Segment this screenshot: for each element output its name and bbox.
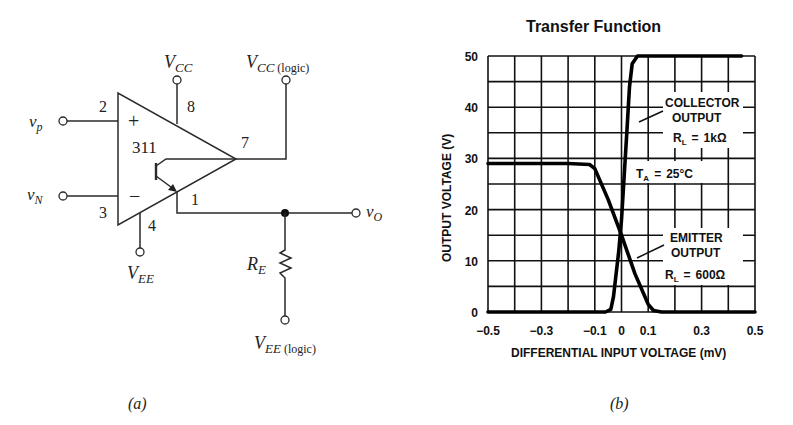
y-tick-label: 50 [465, 50, 479, 64]
pin-3-label: 3 [99, 204, 107, 221]
chart-title: Transfer Function [526, 18, 661, 35]
vp-label: vp [29, 112, 43, 134]
circuit-diagram: 2 3 8 4 7 1 + − 311 vp vN vO VCC VCC(log… [27, 52, 383, 413]
pin-2-label: 2 [99, 98, 107, 115]
x-axis-label: DIFFERENTIAL INPUT VOLTAGE (mV) [511, 346, 726, 360]
vcc-label: VCC [164, 52, 193, 75]
vee-logic-label: VEE(logic) [254, 333, 316, 356]
chip-label: 311 [132, 138, 157, 157]
vee-label: VEE [127, 263, 154, 286]
resistor-re [280, 213, 291, 316]
emitter-leader [637, 245, 664, 258]
collector-leader [639, 111, 663, 122]
y-tick-label: 30 [465, 152, 479, 166]
caption-a: (a) [128, 395, 147, 413]
vee-logic-terminal [281, 316, 289, 324]
emitter-label-1: EMITTER [670, 231, 723, 245]
y-tick-label: 40 [465, 101, 479, 115]
x-tick-label: 0.1 [640, 324, 657, 338]
pin-8-label: 8 [187, 98, 195, 115]
figure-canvas: 2 3 8 4 7 1 + − 311 vp vN vO VCC VCC(log… [0, 0, 793, 425]
pin-7-label: 7 [241, 134, 249, 151]
emitter-label-2: OUTPUT [671, 246, 721, 260]
x-tick-label: 0 [618, 324, 625, 338]
pin-4-label: 4 [148, 217, 156, 234]
vcc-logic-terminal [282, 76, 290, 84]
transfer-function-chart: Transfer Function 01020304050−0.5−0.3−0.… [440, 18, 764, 413]
collector-label-2: OUTPUT [672, 111, 722, 125]
vee-terminal [136, 248, 144, 256]
vo-terminal [352, 209, 360, 217]
vn-label: vN [27, 185, 44, 207]
vo-label: vO [366, 202, 383, 224]
x-tick-label: −0.1 [583, 324, 607, 338]
vcc-terminal [173, 76, 181, 84]
caption-b: (b) [610, 395, 629, 413]
re-label: RE [246, 254, 266, 277]
x-tick-label: −0.5 [476, 324, 500, 338]
vn-terminal [59, 192, 67, 200]
plus-sign: + [128, 110, 139, 132]
x-tick-label: 0.5 [747, 324, 764, 338]
vp-terminal [59, 117, 67, 125]
y-tick-label: 0 [471, 306, 478, 320]
x-tick-label: −0.3 [530, 324, 554, 338]
minus-sign: − [129, 185, 140, 207]
y-tick-label: 10 [465, 255, 479, 269]
collector-label-1: COLLECTOR [665, 96, 740, 110]
vcc-logic-label: VCC(logic) [246, 52, 309, 75]
pin-1-label: 1 [191, 191, 199, 208]
y-axis-label: OUTPUT VOLTAGE (V) [440, 134, 454, 262]
x-tick-label: 0.3 [693, 324, 710, 338]
emitter-wire [177, 192, 352, 213]
y-tick-label: 20 [465, 204, 479, 218]
